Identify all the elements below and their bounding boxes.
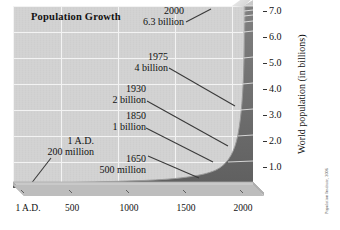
ytick-label-5: 5.0 [269, 57, 282, 68]
xtick-label-1ad: 1 A.D. [0, 203, 56, 213]
annotation-population: 6.3 billion [96, 17, 184, 28]
ytick-mark-6 [263, 37, 267, 38]
ytick-mark-3 [263, 115, 267, 116]
ytick-mark-4 [263, 89, 267, 90]
annotation-population: 4 billion [84, 63, 168, 74]
annotation-population: 500 million [62, 165, 146, 176]
ytick-mark-5 [263, 63, 267, 64]
ytick-mark-7 [263, 11, 267, 12]
annotation-1975: 1975 4 billion [84, 52, 168, 74]
annotation-population: 2 billion [62, 95, 146, 106]
xtick-label-1000: 1000 [104, 203, 154, 213]
xtick-label-1500: 1500 [161, 203, 211, 213]
annotation-2000: 2000 6.3 billion [96, 6, 184, 28]
source-credit: Population Institute, 2006 [324, 134, 329, 214]
annotation-1850: 1850 1 billion [64, 111, 146, 133]
ytick-mark-2 [263, 141, 267, 142]
ytick-label-4: 4.0 [269, 83, 282, 94]
ytick-label-2: 2.0 [269, 135, 282, 146]
y-axis-title: World population (in billions) [296, 4, 307, 154]
ytick-mark-1 [263, 167, 267, 168]
annotation-1650: 1650 500 million [62, 154, 146, 176]
ytick-label-7: 7.0 [269, 5, 282, 16]
annotation-1930: 1930 2 billion [62, 84, 146, 106]
ytick-label-3: 3.0 [269, 109, 282, 120]
ytick-label-6: 6.0 [269, 31, 282, 42]
annotation-population: 1 billion [64, 122, 146, 133]
population-growth-chart: Population Growth 1 A.D. 200 million 165… [0, 0, 340, 230]
xtick-label-2000: 2000 [218, 203, 268, 213]
ytick-label-1: 1.0 [269, 161, 282, 172]
xtick-label-500: 500 [50, 203, 94, 213]
